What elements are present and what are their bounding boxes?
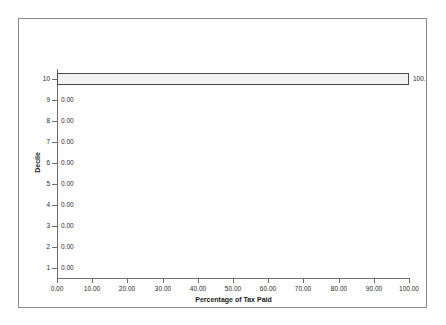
bar-value-label: 0.00 (61, 96, 74, 104)
bar-value-label: 0.00 (61, 138, 74, 146)
bar-value-label: 0.00 (61, 222, 74, 230)
bar-value-label: 0.00 (61, 264, 74, 272)
x-axis-title: Percentage of Tax Paid (57, 296, 410, 303)
bar-value-label: 0.00 (61, 180, 74, 188)
bar-value-label: 0.00 (61, 117, 74, 125)
y-axis-title: Decile (34, 133, 41, 193)
bar-value-label: 0.00 (61, 201, 74, 209)
chart-frame: 12345678910 0.0010.0020.0030.0040.0050.0… (18, 18, 427, 308)
bar-value-label: 0.00 (61, 159, 74, 167)
bar-value-label: 0.00 (61, 243, 74, 251)
bar-value-label: 100. (413, 75, 426, 83)
bar (57, 73, 409, 85)
plot-clip-region: 0.000.000.000.000.000.000.000.000.00100. (19, 19, 426, 307)
